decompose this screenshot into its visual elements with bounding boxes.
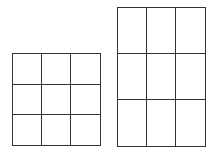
- tall-grid-3x3: [117, 7, 206, 147]
- square-grid-3x3: [12, 53, 101, 146]
- grid-diagram: [0, 0, 214, 159]
